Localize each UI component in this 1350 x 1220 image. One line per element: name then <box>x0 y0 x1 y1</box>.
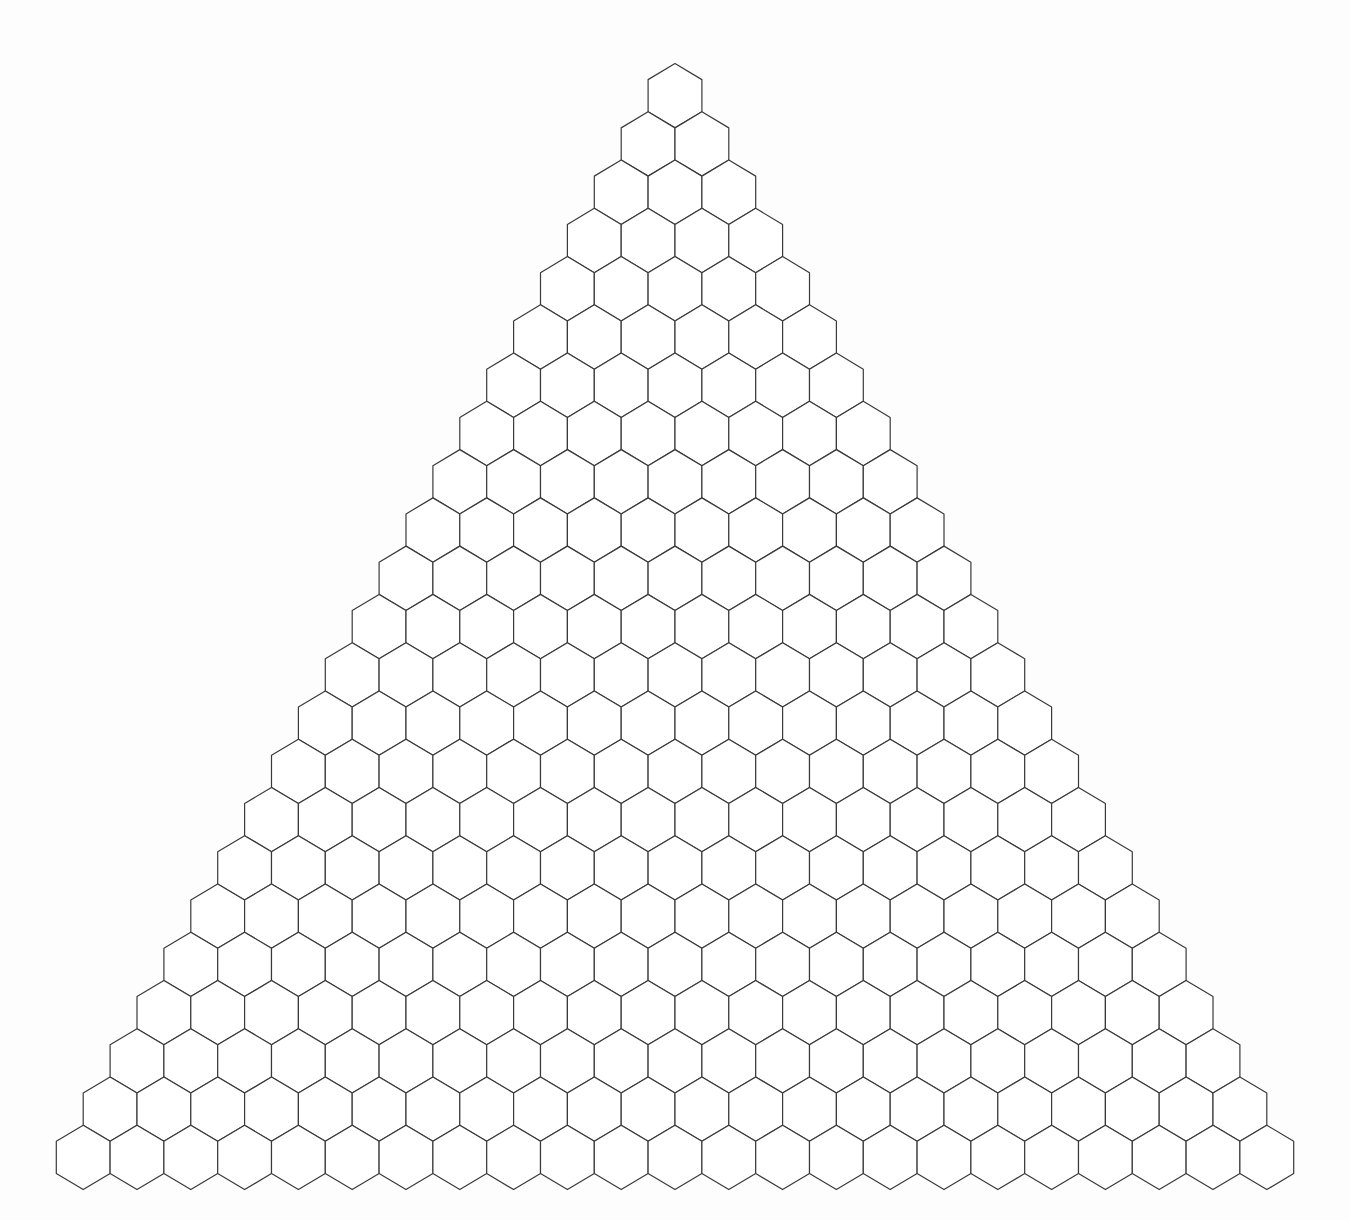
hex-triangle-canvas <box>0 0 1350 1220</box>
hex-triangle-grid <box>0 0 1350 1220</box>
